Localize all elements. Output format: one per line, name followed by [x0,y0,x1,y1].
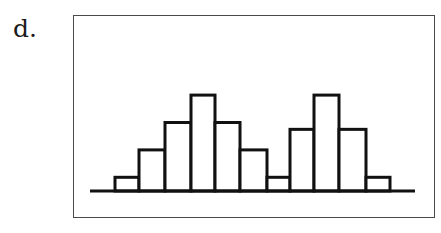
histogram-bar [115,177,139,191]
histogram-bar [240,150,267,191]
histogram-bar [366,177,390,191]
histogram-bar [314,95,339,191]
histogram-bar [139,150,165,191]
histogram-bar [165,123,191,192]
histogram-bars [115,95,390,191]
histogram-bar [339,129,366,191]
histogram-bar [267,177,290,191]
histogram [0,0,441,233]
histogram-bar [215,123,240,192]
histogram-bar [290,129,314,191]
histogram-bar [191,95,215,191]
